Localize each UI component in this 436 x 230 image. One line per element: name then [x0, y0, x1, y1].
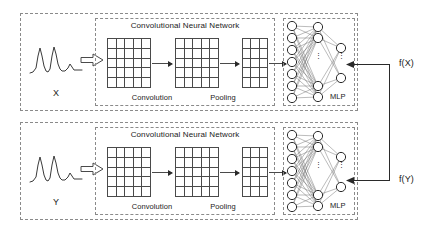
input-signal-waveform-x: [28, 42, 84, 76]
pooling-label-bottom: Pooling: [210, 202, 236, 211]
mlp-output-ellipsis-top: ⋮: [338, 55, 344, 57]
pool-feature-map-bottom: [242, 147, 268, 197]
feedback-wire-bottom: [352, 180, 390, 181]
cnn-title-top: Convolutional Neural Network: [131, 21, 240, 30]
mlp-output-nodes-bottom: [336, 152, 345, 191]
mlp-hidden-nodes-top: [313, 22, 322, 101]
mlp-output-ellipsis-bottom: ⋮: [338, 164, 344, 166]
mlp-label-bottom: MLP: [330, 201, 346, 210]
output-label-fy: f(Y): [399, 174, 414, 184]
branch-bottom-input-label: Y: [53, 197, 59, 207]
pooling-label-top: Pooling: [210, 93, 236, 102]
input-signal-waveform-y: [28, 151, 84, 185]
output-label-fx: f(X): [399, 58, 414, 68]
feedback-wire-top: [352, 64, 390, 65]
feedback-vertical-wire: [389, 64, 390, 181]
convolution-label-bottom: Convolution: [132, 202, 173, 211]
mlp-hidden-nodes-bottom: [313, 131, 322, 210]
conv-to-pool-arrow-top: [220, 63, 239, 64]
conv-to-pool-arrow-bottom: [220, 172, 239, 173]
feedback-arrowhead-bottom: [346, 176, 355, 185]
conv-to-conv-arrow-top: [152, 63, 172, 64]
branch-top-input-label: X: [53, 88, 59, 98]
cnn-title-bottom: Convolutional Neural Network: [131, 130, 240, 139]
mlp-hidden-ellipsis-bottom: ⋮: [315, 164, 321, 166]
conv-feature-map-1-bottom: [107, 147, 151, 197]
pool-feature-map-top: [242, 38, 268, 88]
conv-feature-map-2-bottom: [175, 147, 219, 197]
feedback-arrowhead-top: [346, 60, 355, 69]
conv-to-conv-arrow-bottom: [152, 172, 172, 173]
mlp-hidden-ellipsis-top: ⋮: [315, 55, 321, 57]
convolution-label-top: Convolution: [132, 93, 173, 102]
mlp-output-nodes-top: [336, 43, 345, 82]
conv-feature-map-2-top: [175, 38, 219, 88]
conv-feature-map-1-top: [107, 38, 151, 88]
mlp-label-top: MLP: [330, 92, 346, 101]
diagram-canvas: X Convolutional Neural Network Convoluti…: [0, 0, 436, 230]
